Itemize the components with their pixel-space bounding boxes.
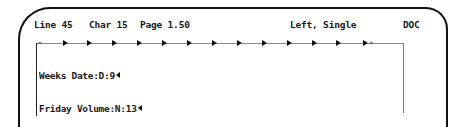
tab-stop-marker-icon[interactable] — [63, 40, 68, 46]
right-margin-marker[interactable]: » — [369, 40, 373, 47]
status-alignment: Left, Single — [290, 18, 356, 32]
tab-stop-marker-icon[interactable] — [237, 40, 242, 46]
document-line: Friday Volume:N:13 — [39, 103, 142, 114]
tab-stop-marker-icon[interactable] — [262, 40, 267, 46]
tab-stop-marker-icon[interactable] — [187, 40, 192, 46]
tab-stop-marker-icon[interactable] — [137, 40, 142, 46]
tab-stop-marker-icon[interactable] — [112, 40, 117, 46]
field-end-marker-icon — [116, 72, 120, 78]
tab-stop-marker-icon[interactable] — [363, 40, 368, 46]
tab-stop-marker-icon[interactable] — [312, 40, 317, 46]
status-line-number: Line 45 — [34, 18, 73, 32]
field-definition: Friday Volume:N:13 — [39, 103, 137, 114]
left-margin-line — [36, 43, 37, 116]
document-body[interactable]: Weeks Date:D:9 Friday Volume:N:13 High/A… — [39, 47, 142, 127]
status-char-position: Char 15 — [89, 18, 128, 32]
field-definition: Weeks Date:D:9 — [39, 70, 115, 81]
field-end-marker-icon — [138, 105, 142, 111]
status-mode: DOC — [403, 18, 420, 32]
tab-stop-marker-icon[interactable] — [162, 40, 167, 46]
status-page-number: Page 1.50 — [140, 18, 190, 32]
status-bar: Line 45 Char 15 Page 1.50 Left, Single D… — [34, 18, 434, 32]
left-margin-marker[interactable]: « — [38, 39, 42, 47]
tab-stop-marker-icon[interactable] — [336, 40, 341, 46]
document-line: Weeks Date:D:9 — [39, 70, 142, 81]
tab-stop-marker-icon[interactable] — [87, 40, 92, 46]
right-margin-line — [403, 43, 404, 113]
tab-stop-marker-icon[interactable] — [287, 40, 292, 46]
tab-stop-marker-icon[interactable] — [212, 40, 217, 46]
